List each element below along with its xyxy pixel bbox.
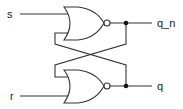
junction-dot-icon — [124, 21, 129, 26]
junction-dot-icon — [124, 84, 129, 89]
nor-gate-bottom — [64, 70, 110, 103]
sr-latch-diagram: s r q_n q — [0, 0, 183, 109]
inverter-bubble-icon — [104, 83, 110, 89]
output-label-q-n: q_n — [157, 17, 175, 29]
input-label-r: r — [10, 90, 14, 102]
nor-gate-top — [64, 7, 110, 40]
output-label-q: q — [157, 80, 163, 92]
input-label-s: s — [7, 8, 13, 20]
inverter-bubble-icon — [104, 20, 110, 26]
